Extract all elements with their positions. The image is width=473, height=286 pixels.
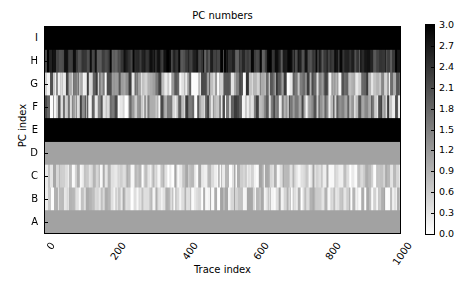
x-tick-label: 400 [180,240,200,262]
x-axis-label: Trace index [44,264,401,275]
y-tick-mark [44,38,48,39]
y-tick-mark [44,153,48,154]
colorbar-tick-mark [431,130,435,131]
y-tick-mark [44,130,48,131]
colorbar-tick-mark [431,171,435,172]
colorbar-tick-label: 0.3 [439,208,454,218]
y-tick-label: C [26,171,38,181]
colorbar-tick-label: 2.1 [439,83,454,93]
colorbar-tick-label: 0.9 [439,166,454,176]
y-tick-label: H [26,56,38,66]
colorbar-tick-mark [431,109,435,110]
y-tick-mark [44,107,48,108]
y-tick-mark [44,176,48,177]
y-tick-label: D [26,148,38,158]
colorbar-tick-mark [431,150,435,151]
x-tick-label: 200 [108,240,128,262]
colorbar-tick-mark [431,88,435,89]
y-tick-mark [44,199,48,200]
y-tick-mark [44,222,48,223]
chart-title: PC numbers [44,10,401,21]
colorbar-tick-label: 0.6 [439,187,454,197]
colorbar-tick-mark [431,213,435,214]
x-tick-label: 1000 [390,240,414,267]
colorbar-tick-label: 1.2 [439,145,454,155]
colorbar-tick-label: 2.7 [439,41,454,51]
colorbar-tick-label: 2.4 [439,62,454,72]
colorbar-tick-mark [431,234,435,235]
colorbar-tick-mark [431,46,435,47]
colorbar-tick-label: 1.8 [439,104,454,114]
y-tick-label: B [26,194,38,204]
colorbar-tick-mark [431,67,435,68]
colorbar-tick-label: 1.5 [439,125,454,135]
y-tick-label: A [26,217,38,227]
y-tick-label: E [26,125,38,135]
x-tick-label: 0 [44,240,57,252]
x-tick-label: 800 [323,240,343,262]
y-tick-label: I [26,33,38,43]
y-tick-mark [44,61,48,62]
y-tick-label: F [26,102,38,112]
heatmap-plot-area [44,26,401,234]
y-tick-label: G [26,79,38,89]
colorbar-tick-label: 3.0 [439,20,454,30]
colorbar-tick-mark [431,25,435,26]
x-tick-label: 600 [251,240,271,262]
heatmap-canvas [45,27,400,233]
colorbar-tick-label: 0.0 [439,229,454,239]
y-tick-mark [44,84,48,85]
colorbar-tick-mark [431,192,435,193]
